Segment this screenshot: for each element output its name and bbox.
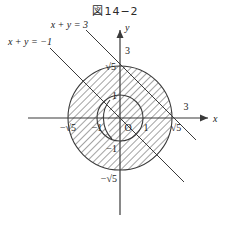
y-tick-sqrt5: √5 [106, 61, 117, 72]
x-tick-origin: O [124, 122, 131, 133]
y-tick-neg-sqrt5: −√5 [101, 173, 117, 184]
x-tick-1: 1 [144, 122, 149, 133]
figure-container: 図14−2 [0, 0, 231, 227]
math-plot: x y x + y = 3 x + y = −1 3 √5 1 −1 −√5 −… [0, 0, 231, 227]
x-tick-neg-1: −1 [92, 122, 103, 133]
x-tick-neg-sqrt5: −√5 [60, 122, 76, 133]
y-axis-name: y [124, 22, 130, 33]
y-axis-arrow [117, 30, 124, 38]
x-tick-sqrt5: √5 [171, 122, 182, 133]
x-axis-arrow [200, 115, 208, 122]
y-tick-1: 1 [112, 90, 117, 101]
label-line-lower: x + y = −1 [7, 36, 52, 47]
label-line-upper: x + y = 3 [50, 19, 88, 30]
x-tick-3: 3 [184, 101, 189, 112]
y-tick-neg-1: −1 [106, 143, 117, 154]
x-axis-name: x [212, 113, 218, 124]
y-tick-3: 3 [125, 45, 130, 56]
